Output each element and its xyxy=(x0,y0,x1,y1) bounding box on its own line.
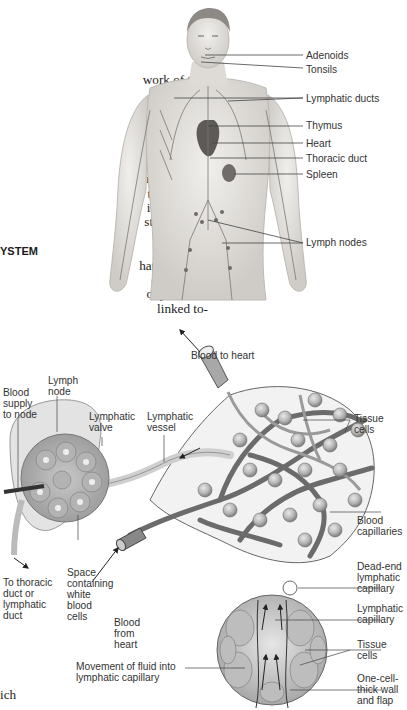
human-body-figure xyxy=(110,8,306,300)
label-one-cell-thick-wall: One-cell- thick wall and flap xyxy=(357,673,398,706)
label-lymph-nodes: Lymph nodes xyxy=(306,237,367,248)
label-adenoids: Adenoids xyxy=(306,50,348,61)
label-tissue-cells-top: Tissue cells xyxy=(354,413,384,435)
label-thoracic-duct: Thoracic duct xyxy=(306,153,367,164)
label-lymph-node: Lymph node xyxy=(48,375,78,397)
label-space-containing-white-blood-cells: Space containing white blood cells xyxy=(67,567,113,622)
label-to-thoracic-duct: To thoracic duct or lymphatic duct xyxy=(3,577,52,621)
label-dead-end-lymphatic-capillary: Dead-end lymphatic capillary xyxy=(357,561,402,594)
label-tonsils: Tonsils xyxy=(306,64,337,75)
label-spleen: Spleen xyxy=(306,169,338,180)
label-blood-capillaries: Blood capillaries xyxy=(357,515,402,537)
label-lymphatic-valve: Lymphatic valve xyxy=(89,411,135,433)
label-thymus: Thymus xyxy=(306,120,342,131)
label-blood-supply-to-node: Blood supply to node xyxy=(3,387,37,420)
label-lymphatic-vessel: Lymphatic vessel xyxy=(147,411,193,433)
label-blood-from-heart: Blood from heart xyxy=(114,617,140,650)
label-movement-of-fluid: Movement of fluid into lymphatic capilla… xyxy=(76,661,176,683)
label-heart: Heart xyxy=(306,138,331,149)
label-blood-to-heart: Blood to heart xyxy=(191,350,254,361)
label-lymphatic-capillary: Lymphatic capillary xyxy=(357,603,403,625)
label-lymphatic-ducts: Lymphatic ducts xyxy=(306,93,379,104)
label-tissue-cells-bottom: Tissue cells xyxy=(357,639,387,661)
